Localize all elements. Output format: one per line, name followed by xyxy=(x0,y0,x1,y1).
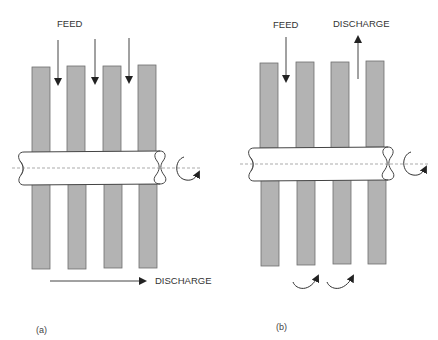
disc xyxy=(296,62,314,148)
caption-b: (b) xyxy=(276,322,287,332)
disc xyxy=(67,66,85,153)
disc xyxy=(104,184,122,268)
diagram-b: FEED DISCHARGE (b) xyxy=(240,18,428,332)
disc-mill-diagram: FEED DISCHARGE xyxy=(0,0,438,340)
rotation-arrow-icon xyxy=(177,157,199,180)
disc xyxy=(297,180,315,265)
recirculation-arrow-icon xyxy=(293,276,318,288)
caption-a: (a) xyxy=(36,325,47,335)
disc xyxy=(32,184,50,269)
feed-label-a: FEED xyxy=(57,18,82,29)
diagram-a: FEED DISCHARGE xyxy=(12,18,211,335)
disc xyxy=(368,179,386,264)
disc xyxy=(103,66,121,153)
feed-label-b: FEED xyxy=(273,19,298,30)
recirculation-arrow-icon xyxy=(327,276,353,288)
disc xyxy=(32,67,50,153)
shaft-a xyxy=(12,151,200,185)
disc xyxy=(139,184,157,268)
disc xyxy=(68,184,86,269)
disc xyxy=(261,180,279,266)
rotation-arrow-icon xyxy=(404,152,426,175)
disc xyxy=(366,61,384,147)
disc xyxy=(260,63,278,148)
disc xyxy=(138,65,156,153)
disc xyxy=(333,179,351,264)
discharge-label-a: DISCHARGE xyxy=(155,275,211,286)
discharge-label-b: DISCHARGE xyxy=(333,18,389,29)
disc xyxy=(331,62,349,148)
shaft-b xyxy=(240,147,428,181)
